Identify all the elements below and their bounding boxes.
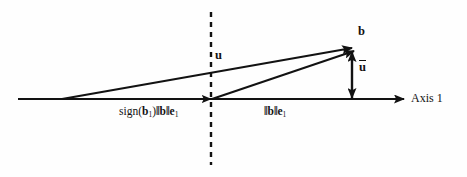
label-vector-u: u xyxy=(215,49,222,62)
left-seg-e-index: 1 xyxy=(175,110,179,119)
vector-diagram: u b u sign(b1)‖b‖e1 ‖b‖e1 Axis 1 xyxy=(0,0,467,177)
right-seg-e-index: 1 xyxy=(283,110,287,119)
label-axis-1: Axis 1 xyxy=(411,92,443,104)
right-seg-e: e xyxy=(277,105,282,117)
label-vector-b: b xyxy=(358,25,365,38)
label-right-segment: ‖b‖e1 xyxy=(264,106,286,118)
left-seg-e: e xyxy=(170,105,175,117)
u-bar-overline: u xyxy=(359,60,366,74)
vector-b-arrow xyxy=(212,51,354,99)
vector-u-arrow xyxy=(62,48,352,99)
left-seg-b-index: 1 xyxy=(148,110,152,119)
left-seg-prefix: sign( xyxy=(119,105,142,117)
diagram-canvas xyxy=(0,0,467,177)
label-vector-u-bar: u xyxy=(359,60,366,74)
label-left-segment: sign(b1)‖b‖e1 xyxy=(119,106,178,118)
